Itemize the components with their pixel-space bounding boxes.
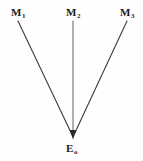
diagram-background	[0, 0, 143, 161]
node-label-e0-subscript: o	[74, 148, 78, 156]
node-label-m1-base: M	[11, 6, 22, 18]
convergence-diagram: M1 M2 M3 Eo	[0, 0, 143, 161]
node-label-m3-base: M	[120, 6, 131, 18]
diagram-canvas	[0, 0, 143, 161]
node-label-m2-subscript: 2	[77, 12, 81, 20]
node-label-e0: Eo	[66, 143, 77, 154]
node-label-m2-base: M	[66, 6, 77, 18]
node-label-m2: M2	[66, 7, 80, 18]
node-label-m3: M3	[120, 7, 134, 18]
node-label-m1-subscript: 1	[22, 12, 26, 20]
node-label-e0-base: E	[66, 142, 74, 154]
node-label-m3-subscript: 3	[131, 12, 135, 20]
node-label-m1: M1	[11, 7, 25, 18]
